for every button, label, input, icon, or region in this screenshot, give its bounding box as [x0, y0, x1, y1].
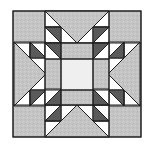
star-point-unit-right — [108, 42, 140, 106]
star-point-unit-top — [45, 11, 109, 43]
quilt-block — [13, 11, 141, 137]
quilt-block-diagram — [0, 0, 152, 147]
center-square — [61, 59, 93, 90]
star-point-unit-bottom — [45, 105, 109, 137]
star-point-unit-left — [14, 42, 46, 106]
